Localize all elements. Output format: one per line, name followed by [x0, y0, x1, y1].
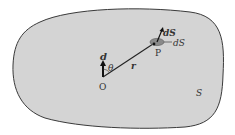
label-dS-vector: dS [163, 28, 176, 38]
point-P-dot [153, 43, 156, 46]
label-S: S [196, 88, 202, 98]
closed-surface [13, 9, 224, 128]
label-d: d [100, 51, 107, 62]
label-P: P [155, 48, 161, 58]
label-theta: θ [108, 63, 114, 73]
label-dS-element: dS [173, 38, 185, 48]
label-O: O [99, 82, 106, 92]
diagram: d θ O r P dS dS S [0, 0, 235, 135]
